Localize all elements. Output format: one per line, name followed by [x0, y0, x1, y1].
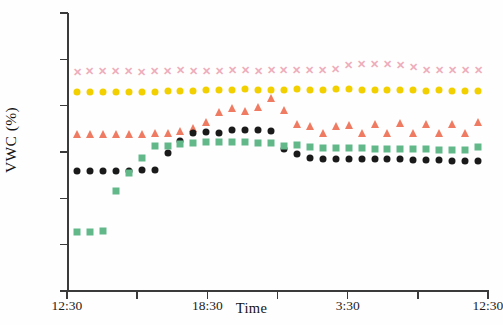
plot-area	[67, 13, 488, 291]
x-tick-mark	[417, 292, 419, 299]
x-tick-mark	[136, 292, 138, 299]
x-axis-title: Time	[0, 300, 503, 317]
y-axis-title: VWC (%)	[2, 60, 22, 220]
vwc-time-scatter-chart: 5101520253035 12:3018:303:3012:30 VWC (%…	[0, 0, 503, 325]
x-tick-mark	[277, 292, 279, 299]
